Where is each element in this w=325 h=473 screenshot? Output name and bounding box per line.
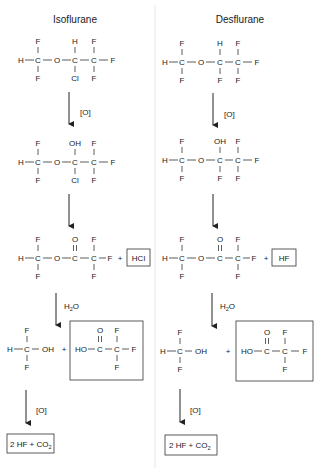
atom-c: C: [179, 58, 185, 67]
atom-c: C: [97, 345, 103, 354]
oxidation-label: [O]: [224, 110, 235, 119]
atom-c: C: [72, 56, 78, 65]
atom-f: F: [180, 272, 185, 281]
oxidation-label: [O]: [36, 406, 47, 415]
metabolism-diagram: Isoflurane F H F H C O C C F F Cl F [O]: [0, 0, 325, 473]
atom-o: O: [198, 156, 204, 165]
atom-c: C: [114, 345, 120, 354]
atom-h: H: [162, 254, 168, 263]
atom-f: F: [36, 235, 41, 244]
atom-f: F: [180, 235, 185, 244]
atom-f: F: [255, 58, 260, 67]
atom-c: C: [179, 156, 185, 165]
atom-o: O: [198, 58, 204, 67]
hydrolysis-label: H2O: [64, 302, 79, 312]
oxidation-label: [O]: [80, 108, 91, 117]
atom-f: F: [115, 326, 120, 335]
atom-h: H: [7, 345, 13, 354]
byproduct-hcl: HCl: [132, 254, 146, 263]
atom-o: O: [54, 254, 60, 263]
atom-c: C: [24, 345, 30, 354]
atom-o: O: [72, 235, 78, 244]
atom-c: C: [282, 347, 288, 356]
atom-oh: OH: [42, 345, 54, 354]
isoflurane-column: Isoflurane F H F H C O C C F F Cl F [O]: [7, 14, 150, 453]
atom-f: F: [111, 158, 116, 167]
atom-c: C: [91, 158, 97, 167]
atom-f: F: [115, 363, 120, 372]
atom-f: F: [236, 235, 241, 244]
atom-h: H: [18, 56, 24, 65]
atom-f: F: [218, 76, 223, 85]
oxidation-label: [O]: [190, 406, 201, 415]
atom-c: C: [91, 56, 97, 65]
atom-c: C: [35, 254, 41, 263]
atom-c: C: [217, 156, 223, 165]
column-title: Isoflurane: [53, 14, 97, 25]
atom-h: H: [162, 156, 168, 165]
atom-o: O: [54, 56, 60, 65]
atom-h: H: [18, 158, 24, 167]
atom-f: F: [36, 139, 41, 148]
atom-oh: OH: [195, 347, 207, 356]
hydrolysis-products: F H C OH F + HO O C F C F F: [160, 321, 313, 381]
atom-oh: OH: [214, 137, 226, 146]
atom-f: F: [283, 328, 288, 337]
atom-f: F: [180, 76, 185, 85]
atom-f: F: [236, 76, 241, 85]
ester-intermediate: F O F H C O C C F F F + HF: [162, 235, 296, 281]
atom-f: F: [36, 74, 41, 83]
atom-h: H: [18, 254, 24, 263]
atom-f: F: [178, 365, 183, 374]
atom-cl: Cl: [71, 74, 79, 83]
plus-sign: +: [226, 347, 231, 356]
atom-c: C: [217, 58, 223, 67]
final-products: 2 HF + CO2: [169, 441, 211, 451]
atom-f: F: [255, 156, 260, 165]
atom-f: F: [236, 39, 241, 48]
atom-f: F: [236, 174, 241, 183]
atom-f: F: [92, 37, 97, 46]
atom-f: F: [111, 56, 116, 65]
byproduct-hf: HF: [279, 254, 290, 263]
atom-c: C: [179, 254, 185, 263]
atom-f: F: [303, 347, 308, 356]
ester-intermediate: F O F H C O C C F F F + HCl: [18, 235, 150, 281]
atom-h: H: [72, 37, 78, 46]
atom-o: O: [198, 254, 204, 263]
atom-f: F: [36, 37, 41, 46]
atom-h: H: [217, 39, 223, 48]
plus-sign: +: [62, 345, 67, 354]
atom-f: F: [92, 235, 97, 244]
atom-c: C: [235, 58, 241, 67]
atom-f: F: [180, 137, 185, 146]
atom-h: H: [160, 347, 166, 356]
hydroxylated-intermediate: F OH F H C O C C F F Cl F: [18, 139, 115, 185]
column-title: Desflurane: [216, 14, 265, 25]
atom-f: F: [218, 174, 223, 183]
atom-f: F: [36, 272, 41, 281]
atom-f: F: [178, 328, 183, 337]
atom-f: F: [283, 365, 288, 374]
final-products: 2 HF + CO2: [10, 440, 52, 450]
atom-f: F: [36, 176, 41, 185]
atom-f: F: [92, 74, 97, 83]
atom-f: F: [92, 272, 97, 281]
atom-f: F: [252, 254, 257, 263]
atom-f: F: [92, 176, 97, 185]
atom-ho: HO: [75, 345, 87, 354]
atom-ho: HO: [241, 347, 253, 356]
isoflurane-molecule: F H F H C O C C F F Cl F: [18, 37, 115, 83]
atom-f: F: [25, 326, 30, 335]
atom-c: C: [177, 347, 183, 356]
atom-c: C: [217, 254, 223, 263]
atom-f: F: [180, 174, 185, 183]
atom-c: C: [264, 347, 270, 356]
atom-c: C: [35, 158, 41, 167]
atom-o: O: [97, 326, 103, 335]
atom-o: O: [264, 328, 270, 337]
atom-c: C: [235, 156, 241, 165]
atom-f: F: [92, 139, 97, 148]
atom-c: C: [235, 254, 241, 263]
atom-c: C: [91, 254, 97, 263]
